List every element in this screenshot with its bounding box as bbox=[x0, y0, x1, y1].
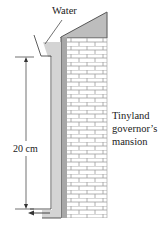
building-label-line1: Tinyland bbox=[112, 110, 150, 122]
water-label: Water bbox=[52, 5, 77, 17]
brick-building bbox=[61, 12, 107, 218]
water-leader-line bbox=[45, 20, 62, 44]
building-label-line2: governor’s bbox=[112, 123, 157, 135]
building-label-line3: mansion bbox=[112, 136, 148, 148]
diagram: Water 20 cm Tinyland governor’s mansion bbox=[0, 0, 161, 228]
pipe bbox=[30, 35, 61, 218]
dimension-arrow bbox=[15, 57, 34, 209]
height-label: 20 cm bbox=[13, 143, 38, 155]
